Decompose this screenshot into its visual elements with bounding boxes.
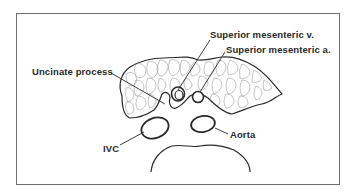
leader-aorta (215, 128, 228, 134)
pancreas (120, 57, 282, 118)
label-aorta: Aorta (230, 130, 255, 140)
aorta (190, 114, 216, 134)
leader-ivc (120, 132, 144, 145)
label-ivc: IVC (103, 144, 119, 154)
label-superior-mesenteric-vein: Superior mesenteric v. (210, 30, 314, 40)
vertebral-body (151, 145, 250, 172)
label-uncinate-process: Uncinate process (32, 67, 113, 77)
label-superior-mesenteric-artery: Superior mesenteric a. (226, 45, 331, 55)
inferior-vena-cava (138, 114, 171, 142)
superior-mesenteric-artery (193, 92, 204, 103)
superior-mesenteric-vein (172, 87, 185, 101)
